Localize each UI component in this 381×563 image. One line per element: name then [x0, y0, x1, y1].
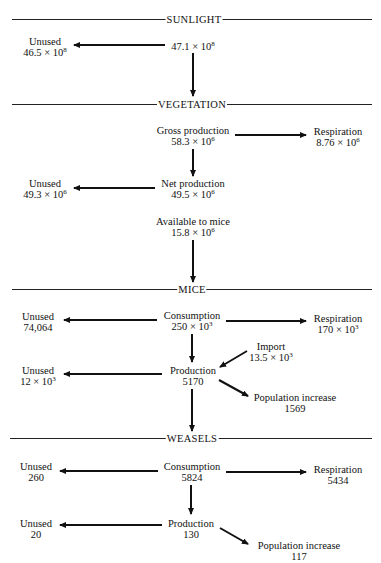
flow-arrows — [0, 0, 381, 563]
arrow-mice-import-production — [220, 351, 247, 367]
arrow-mice-production-population — [219, 380, 248, 396]
arrow-weasels-production-population — [220, 528, 248, 544]
